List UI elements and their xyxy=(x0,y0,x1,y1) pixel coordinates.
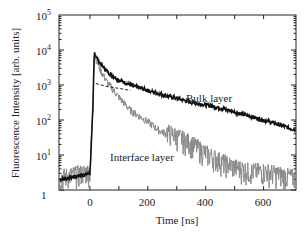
interface-layer-curve xyxy=(60,56,295,191)
y-tick-labels: 105 104 103 102 101 1 xyxy=(36,8,51,201)
y-tick-1e1: 101 xyxy=(36,148,51,162)
bulk-layer-label: Bulk layer xyxy=(186,92,232,104)
x-tick-600: 600 xyxy=(255,196,272,208)
y-tick-1e3: 103 xyxy=(36,78,51,92)
x-axis-title: Time [ns] xyxy=(156,214,199,226)
interface-layer-label: Interface layer xyxy=(110,151,174,163)
y-tick-1e5: 105 xyxy=(36,8,51,22)
x-tick-0: 0 xyxy=(87,196,93,208)
y-tick-1e4: 104 xyxy=(36,43,51,57)
x-tick-labels: 0 200 400 600 xyxy=(87,196,272,208)
plot-frame xyxy=(59,15,296,190)
fluorescence-decay-chart: 105 104 103 102 101 1 0 200 400 600 Time… xyxy=(0,0,305,236)
y-tick-1: 1 xyxy=(41,189,47,201)
axis-ticks xyxy=(59,15,296,190)
data-series xyxy=(60,52,295,190)
y-axis-title: Fluorescence Intensity [arb. units] xyxy=(9,28,21,178)
bulk-layer-curve xyxy=(60,52,295,181)
x-tick-400: 400 xyxy=(197,196,214,208)
x-tick-200: 200 xyxy=(139,196,156,208)
y-tick-1e2: 102 xyxy=(36,113,51,127)
